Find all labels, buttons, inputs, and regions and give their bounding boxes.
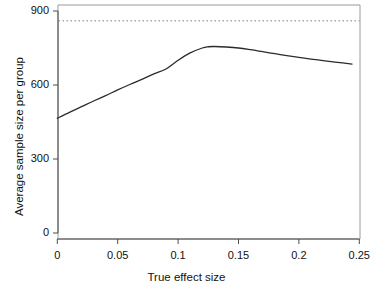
x-axis-tick-label: 0.2 bbox=[274, 250, 324, 261]
x-axis-tick-label: 0.25 bbox=[334, 250, 373, 261]
y-axis-title: Average sample size per group bbox=[14, 57, 26, 216]
x-axis-tick-label: 0.05 bbox=[93, 250, 143, 261]
x-axis-tick-label: 0.15 bbox=[214, 250, 264, 261]
plot-box-border bbox=[58, 5, 360, 239]
x-axis-tick-label: 0.1 bbox=[153, 250, 203, 261]
data-series-group bbox=[57, 47, 352, 119]
chart-figure: 0300600900 00.050.10.150.20.25 Average s… bbox=[0, 0, 373, 289]
x-axis-title: True effect size bbox=[0, 272, 373, 284]
plot-frame bbox=[57, 5, 360, 239]
y-axis-tick-label: 300 bbox=[31, 153, 49, 164]
x-axis-ticks bbox=[57, 239, 359, 244]
y-axis-tick-label: 900 bbox=[31, 5, 49, 16]
x-axis-tick-label: 0 bbox=[32, 250, 82, 261]
y-axis-ticks bbox=[53, 11, 58, 233]
y-axis-tick-label: 600 bbox=[31, 79, 49, 90]
plot-area bbox=[0, 0, 373, 289]
data-line-series bbox=[57, 47, 352, 119]
y-axis-tick-label: 0 bbox=[43, 227, 49, 238]
